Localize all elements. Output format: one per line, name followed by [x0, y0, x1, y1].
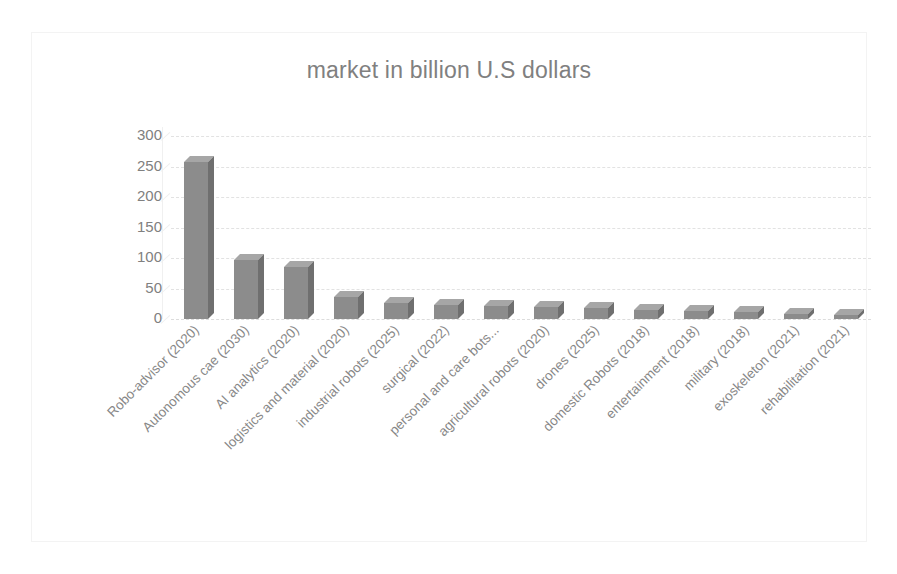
bar-side-face	[408, 297, 414, 319]
bar[interactable]	[834, 315, 858, 319]
bar-slot	[571, 136, 621, 319]
plot-area: 300250200150100500	[171, 136, 871, 319]
bar-slot	[421, 136, 471, 319]
bar[interactable]	[384, 303, 408, 319]
bar-side-face	[208, 156, 214, 319]
y-tick-label-250: 250	[137, 158, 162, 173]
bar-slot	[671, 136, 721, 319]
bar[interactable]	[184, 162, 208, 319]
bar-side-face	[308, 261, 314, 319]
chart-title: market in billion U.S dollars	[32, 57, 866, 84]
bar-slot	[521, 136, 571, 319]
bar[interactable]	[684, 311, 708, 319]
bar-slot	[171, 136, 221, 319]
bar-slot	[321, 136, 371, 319]
bar-side-face	[258, 254, 264, 319]
bar-slot	[471, 136, 521, 319]
bar-series	[171, 136, 871, 319]
bar-slot	[371, 136, 421, 319]
bar-side-face	[358, 291, 364, 319]
bar[interactable]	[484, 306, 508, 319]
bar[interactable]	[634, 310, 658, 319]
bar[interactable]	[334, 297, 358, 319]
bar-slot	[221, 136, 271, 319]
y-tick-label-150: 150	[137, 219, 162, 234]
bar[interactable]	[584, 308, 608, 319]
y-tick-label-50: 50	[145, 280, 162, 295]
x-tick-label: rehabilitation (2021)	[758, 323, 852, 417]
bar[interactable]	[534, 307, 558, 319]
bar-slot	[621, 136, 671, 319]
x-tick-label: Robo-advisor (2020)	[105, 323, 202, 420]
bar[interactable]	[734, 312, 758, 319]
bar[interactable]	[784, 314, 808, 319]
y-tick-label-0: 0	[154, 310, 162, 325]
chart-frame: market in billion U.S dollars 3002502001…	[31, 32, 867, 542]
y-tick-label-100: 100	[137, 249, 162, 264]
gridline-0	[171, 319, 871, 320]
x-axis-category-labels: Robo-advisor (2020)Autonomous cae (2030)…	[171, 323, 871, 513]
x-tick-label: exoskeleton (2021)	[711, 323, 802, 414]
bar[interactable]	[284, 267, 308, 319]
x-tick-label: entertainment (2018)	[603, 323, 701, 421]
bar-slot	[771, 136, 821, 319]
y-tick-label-200: 200	[137, 188, 162, 203]
y-tick-label-300: 300	[137, 127, 162, 142]
bar-slot	[271, 136, 321, 319]
bar-slot	[721, 136, 771, 319]
bar[interactable]	[234, 260, 258, 319]
bar-slot	[821, 136, 871, 319]
bar[interactable]	[434, 305, 458, 319]
